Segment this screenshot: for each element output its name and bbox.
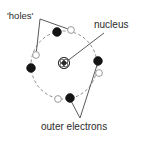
label-outer-electrons: outer electrons xyxy=(41,121,107,132)
electron-marker-right xyxy=(94,57,103,66)
nucleus-marker xyxy=(58,57,69,68)
hole-marker-top-right xyxy=(68,27,75,34)
electron-marker-bottom xyxy=(66,94,75,103)
atom-diagram-figure: 'holes' nucleus outer electrons xyxy=(0,0,142,144)
hole-marker-right xyxy=(96,70,103,77)
label-nucleus: nucleus xyxy=(94,19,128,30)
electron-marker-top xyxy=(53,28,62,37)
leader-line-holes-b xyxy=(36,19,40,55)
leader-line-outer-electrons-a xyxy=(80,62,98,118)
label-holes: 'holes' xyxy=(7,10,33,21)
hole-marker-left xyxy=(33,52,40,59)
hole-marker-bottom-left xyxy=(55,96,62,103)
electron-marker-left xyxy=(27,64,36,73)
